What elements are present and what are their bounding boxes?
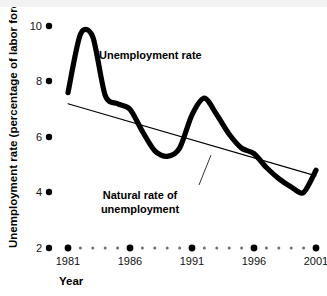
y-tick-label-2: 2	[36, 242, 42, 254]
annotation-natural-rate-line1: Natural rate of	[103, 189, 178, 201]
x-axis-title: Year	[59, 275, 84, 287]
annotation-unemployment-rate: Unemployment rate	[99, 49, 202, 61]
x-tick-label-1986: 1986	[118, 255, 142, 267]
x-tick-label-2001: 2001	[304, 255, 327, 267]
y-tick-label-10: 10	[30, 20, 42, 32]
x-tick-label-1991: 1991	[180, 255, 204, 267]
top-band-decoration	[0, 0, 327, 7]
unemployment-rate-chart: Unemployment rate (percentage of labor f…	[0, 0, 327, 296]
chart-figure: Unemployment rate (percentage of labor f…	[0, 0, 327, 296]
y-tick-dot-2	[46, 245, 52, 251]
x-axis-dot-rule	[65, 245, 320, 252]
x-tick-label-1981: 1981	[56, 255, 80, 267]
y-tick-label-4: 4	[36, 186, 42, 198]
x-tick-label-1996: 1996	[242, 255, 266, 267]
annotation-natural-rate-line2: unemployment	[101, 203, 180, 215]
y-tick-label-8: 8	[36, 75, 42, 87]
y-tick-dot-4	[46, 189, 52, 195]
y-axis-title: Unemployment rate (percentage of labor f…	[7, 0, 19, 248]
natural-rate-leader-line	[199, 155, 211, 185]
y-tick-dot-10	[46, 23, 52, 29]
y-tick-dot-6	[46, 134, 52, 140]
y-tick-dot-8	[46, 78, 52, 84]
y-tick-label-6: 6	[36, 131, 42, 143]
